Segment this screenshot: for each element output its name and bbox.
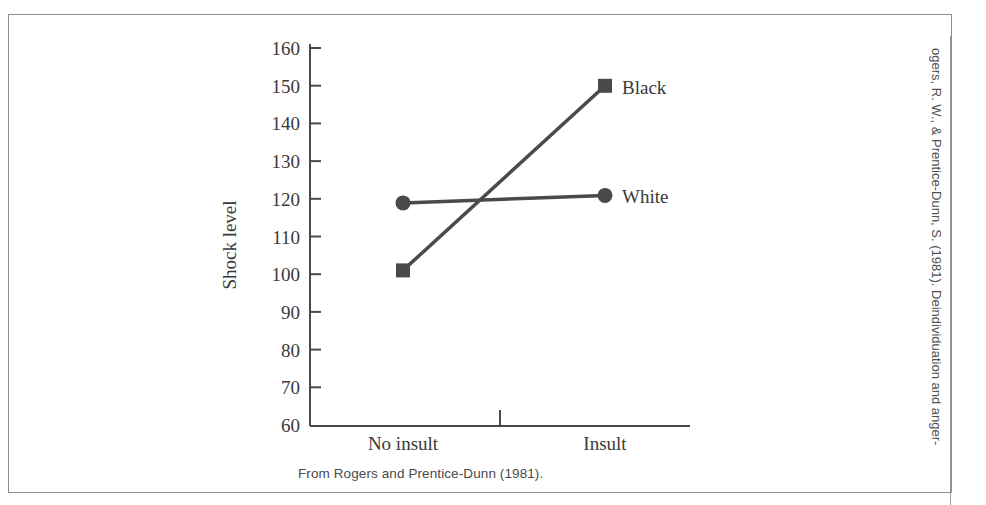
- page-divider: [950, 36, 951, 505]
- series-white-line: [403, 195, 605, 203]
- series-black-marker-insult: [598, 79, 612, 93]
- series-white: White: [396, 186, 669, 210]
- y-tick-label-100: 100: [272, 264, 301, 285]
- source-note: ogers, R. W., & Prentice-Dunn, S. (1981)…: [929, 48, 944, 488]
- y-tick-label-140: 140: [272, 113, 301, 134]
- y-axis-title: Shock level: [219, 200, 240, 289]
- series-black-line: [403, 86, 605, 271]
- y-tick-label-160: 160: [272, 38, 301, 59]
- series-black: Black: [396, 77, 667, 277]
- y-tick-label-80: 80: [281, 340, 300, 361]
- y-tick-label-120: 120: [272, 189, 301, 210]
- x-category-label-no-insult: No insult: [368, 433, 439, 454]
- line-chart-svg: 160 150 140 130 120 110 100 90 80 70 60 …: [0, 0, 986, 505]
- y-tick-label-110: 110: [272, 227, 300, 248]
- series-label-white: White: [622, 186, 668, 207]
- series-label-black: Black: [622, 77, 667, 98]
- chart-canvas: 160 150 140 130 120 110 100 90 80 70 60 …: [0, 0, 986, 505]
- y-tick-label-70: 70: [281, 377, 300, 398]
- y-tick-label-90: 90: [281, 302, 300, 323]
- series-white-marker-insult: [598, 188, 613, 203]
- series-white-marker-no-insult: [396, 195, 411, 210]
- y-tick-label-130: 130: [272, 151, 301, 172]
- y-axis-ticks: [310, 48, 321, 387]
- figure-caption: From Rogers and Prentice-Dunn (1981).: [298, 466, 543, 481]
- series-black-marker-no-insult: [396, 263, 410, 277]
- y-tick-label-60: 60: [281, 415, 300, 436]
- x-category-label-insult: Insult: [583, 433, 627, 454]
- y-tick-label-150: 150: [272, 76, 301, 97]
